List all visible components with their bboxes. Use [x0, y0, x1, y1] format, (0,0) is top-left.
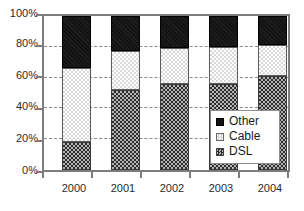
bar-group-2002: [160, 16, 189, 170]
bar-segment-dsl: [160, 84, 189, 170]
bar-segment-other: [258, 16, 287, 45]
x-tick-mark: [42, 172, 44, 178]
bar-segment-other: [62, 16, 91, 68]
bar-group-2000: [62, 16, 91, 170]
legend-label: Other: [229, 115, 259, 128]
x-tick-label-2004: 2004: [248, 182, 292, 194]
bar-segment-other: [209, 16, 238, 47]
y-tick-label: 40%: [0, 101, 38, 112]
bar-segment-cable: [62, 68, 91, 142]
legend-item-other[interactable]: Other: [216, 114, 275, 129]
y-tick-label: 20%: [0, 133, 38, 144]
x-tick-label-2003: 2003: [199, 182, 243, 194]
legend-swatch-other-icon: [216, 118, 224, 126]
legend-label: Cable: [229, 130, 260, 143]
bar-segment-dsl: [62, 142, 91, 170]
x-axis: 2000 2001 2002 2003 2004: [42, 172, 290, 211]
x-tick-mark: [91, 172, 93, 178]
stacked-bar-chart: 100% 80% 60% 40% 20% 0%: [0, 0, 304, 211]
bar-group-2001: [111, 16, 140, 170]
legend-swatch-cable-icon: [216, 133, 224, 141]
y-tick-label: 80%: [0, 38, 38, 49]
x-tick-mark: [287, 172, 289, 178]
x-tick-mark: [140, 172, 142, 178]
y-tick-label: 0%: [0, 165, 38, 176]
x-tick-mark: [238, 172, 240, 178]
legend-label: DSL: [229, 145, 252, 158]
y-tick-label: 100%: [0, 8, 38, 19]
x-tick-label-2000: 2000: [52, 182, 96, 194]
bar-segment-other: [111, 16, 140, 51]
legend-swatch-dsl-icon: [216, 148, 224, 156]
bar-segment-dsl: [111, 90, 140, 170]
legend-item-cable[interactable]: Cable: [216, 129, 275, 144]
chart-legend: Other Cable DSL: [210, 110, 280, 164]
bar-segment-cable: [111, 51, 140, 90]
x-tick-label-2001: 2001: [101, 182, 145, 194]
bar-segment-cable: [209, 47, 238, 84]
bar-segment-cable: [160, 48, 189, 83]
bar-segment-cable: [258, 45, 287, 76]
x-tick-label-2002: 2002: [150, 182, 194, 194]
y-tick-label: 60%: [0, 70, 38, 81]
x-tick-mark: [189, 172, 191, 178]
legend-item-dsl[interactable]: DSL: [216, 144, 275, 159]
bar-segment-other: [160, 16, 189, 48]
